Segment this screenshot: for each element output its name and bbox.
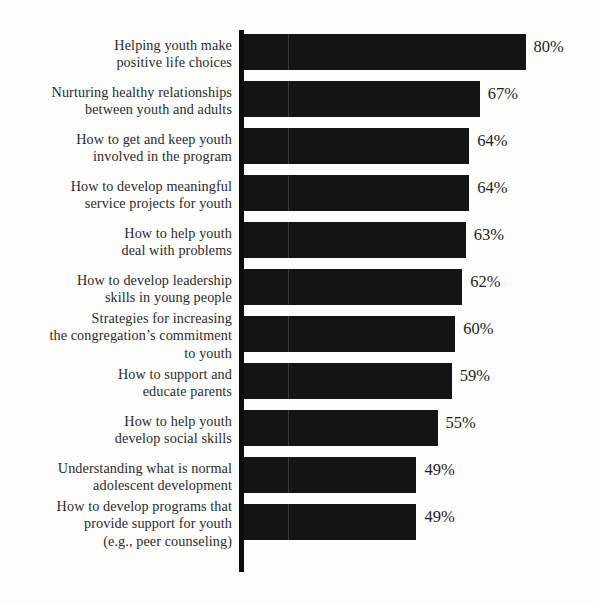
bar-row: How to help youthdeal with problems63% [0, 218, 599, 265]
bar [244, 269, 462, 305]
category-label-line: positive life choices [0, 54, 232, 71]
bar-wrapper [244, 34, 526, 70]
category-label-line: service projects for youth [0, 195, 232, 212]
category-label-line: between youth and adults [0, 101, 232, 118]
bar-value-label: 62% [470, 272, 500, 292]
category-label-line: (e.g., peer counseling) [0, 533, 232, 550]
bar [244, 175, 469, 211]
bar-value-label: 80% [534, 37, 564, 57]
category-label-line: Strategies for increasing [0, 310, 232, 327]
category-label-line: How to help youth [0, 413, 232, 430]
category-label: How to develop programs thatprovide supp… [0, 498, 232, 550]
bar-row: How to develop programs thatprovide supp… [0, 500, 599, 547]
category-label: How to help youthdevelop social skills [0, 413, 232, 447]
bar [244, 504, 416, 540]
bar-value-label: 49% [424, 507, 454, 527]
category-label: How to develop leadershipskills in young… [0, 272, 232, 306]
bar [244, 363, 452, 399]
bar-wrapper [244, 316, 455, 352]
category-label: Nurturing healthy relationshipsbetween y… [0, 84, 232, 118]
bar-wrapper [244, 410, 438, 446]
bar-wrapper [244, 128, 469, 164]
category-label: How to help youthdeal with problems [0, 225, 232, 259]
category-label-line: How to get and keep youth [0, 131, 232, 148]
category-label-line: develop social skills [0, 430, 232, 447]
bar-row: Helping youth makepositive life choices8… [0, 30, 599, 77]
bar-row: How to develop meaningfulservice project… [0, 171, 599, 218]
category-label-line: adolescent development [0, 477, 232, 494]
category-label-line: How to develop meaningful [0, 178, 232, 195]
bar-value-label: 67% [488, 84, 518, 104]
category-label-line: How to develop programs that [0, 498, 232, 515]
bar [244, 457, 416, 493]
bar [244, 222, 466, 258]
category-label-line: educate parents [0, 383, 232, 400]
bar-row: How to develop leadershipskills in young… [0, 265, 599, 312]
bar-wrapper [244, 175, 469, 211]
category-label: Understanding what is normaladolescent d… [0, 460, 232, 494]
category-label: Strategies for increasingthe congregatio… [0, 310, 232, 362]
bar-value-label: 59% [460, 366, 490, 386]
bar-wrapper [244, 363, 452, 399]
bar-row: How to help youthdevelop social skills55… [0, 406, 599, 453]
category-label: How to support andeducate parents [0, 366, 232, 400]
bar-wrapper [244, 81, 480, 117]
bar-wrapper [244, 222, 466, 258]
bar-value-label: 63% [474, 225, 504, 245]
bar-row: How to support andeducate parents59% [0, 359, 599, 406]
bar-row: Strategies for increasingthe congregatio… [0, 312, 599, 359]
bar [244, 316, 455, 352]
category-label-line: skills in young people [0, 289, 232, 306]
category-label-line: How to develop leadership [0, 272, 232, 289]
category-label: How to get and keep youthinvolved in the… [0, 131, 232, 165]
category-label-line: involved in the program [0, 148, 232, 165]
category-label-line: Understanding what is normal [0, 460, 232, 477]
category-label: Helping youth makepositive life choices [0, 37, 232, 71]
bar-value-label: 55% [446, 413, 476, 433]
bar-value-label: 64% [477, 131, 507, 151]
category-label-line: Helping youth make [0, 37, 232, 54]
bar-wrapper [244, 457, 416, 493]
bar [244, 128, 469, 164]
bar-value-label: 49% [424, 460, 454, 480]
category-label-line: Nurturing healthy relationships [0, 84, 232, 101]
bar-value-label: 64% [477, 178, 507, 198]
category-label-line: How to support and [0, 366, 232, 383]
bar [244, 34, 526, 70]
category-label-line: the congregation’s commitment [0, 327, 232, 344]
bar-wrapper [244, 269, 462, 305]
category-label-line: deal with problems [0, 242, 232, 259]
bar [244, 81, 480, 117]
bar-chart: Helping youth makepositive life choices8… [0, 0, 599, 605]
bar-row: How to get and keep youthinvolved in the… [0, 124, 599, 171]
category-label-line: How to help youth [0, 225, 232, 242]
bar-wrapper [244, 504, 416, 540]
plot-area: Helping youth makepositive life choices8… [0, 0, 599, 605]
bar-value-label: 60% [463, 319, 493, 339]
category-label: How to develop meaningfulservice project… [0, 178, 232, 212]
category-label-line: provide support for youth [0, 515, 232, 532]
bar-row: Nurturing healthy relationshipsbetween y… [0, 77, 599, 124]
bar [244, 410, 438, 446]
bar-row: Understanding what is normaladolescent d… [0, 453, 599, 500]
